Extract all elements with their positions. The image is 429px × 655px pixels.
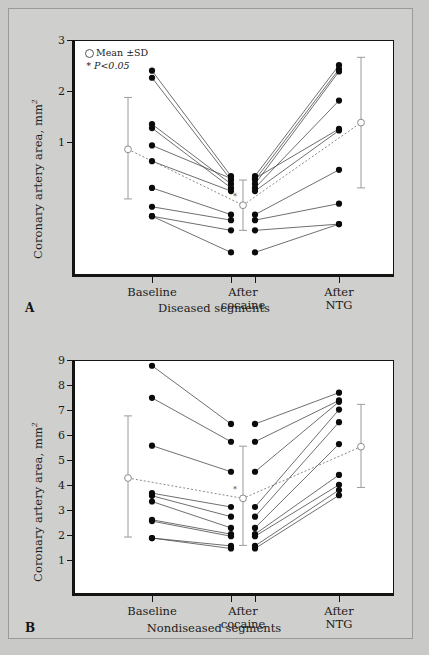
panel-b-xlabel-baseline: Baseline	[112, 605, 192, 618]
figure-frame: Coronary artery area, mm2 3 2 1 Mean ±SD…	[8, 8, 413, 639]
panel-a-xtick-cocaine-left	[231, 276, 232, 283]
panel-a-data-overlay: *	[9, 9, 414, 315]
svg-text:*: *	[233, 485, 237, 494]
panel-a-xtick-ntg	[339, 276, 340, 283]
panel-a: Coronary artery area, mm2 3 2 1 Mean ±SD…	[9, 9, 414, 315]
panel-b-xtick-baseline	[152, 595, 153, 602]
panel-b-xtick-cocaine-right	[255, 595, 256, 602]
panel-b-letter: B	[25, 621, 35, 635]
panel-b-xtick-cocaine-left	[231, 595, 232, 602]
panel-a-xtick-baseline	[152, 276, 153, 283]
panel-b-caption: Nondiseased segments	[114, 621, 314, 635]
panel-b-xtick-ntg	[339, 595, 340, 602]
panel-a-letter: A	[25, 301, 34, 315]
panel-b-data-overlay: *	[9, 327, 414, 633]
panel-a-xtick-cocaine-right	[255, 276, 256, 283]
panel-a-caption: Diseased segments	[129, 301, 299, 315]
panel-b: Coronary artery area, mm2 9 8 7 6 5 4 3 …	[9, 327, 414, 633]
panel-a-xlabel-ntg: After NTG	[299, 286, 379, 312]
panel-a-xlabel-baseline: Baseline	[112, 286, 192, 299]
svg-text:*: *	[233, 192, 237, 201]
